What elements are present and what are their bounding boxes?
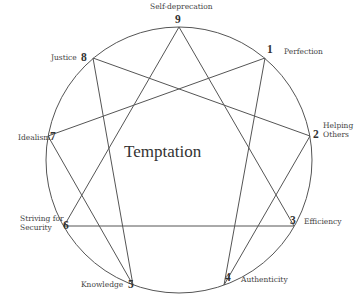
point-8-label: Justice (51, 53, 77, 62)
point-2-label-line1: Helping (323, 121, 353, 130)
point-5-number: 5 (128, 278, 134, 290)
point-9-number: 9 (175, 13, 181, 25)
point-8-number: 8 (81, 51, 87, 63)
inner-triangle (64, 27, 294, 226)
point-4-label: Authenticity (241, 275, 288, 284)
point-7-label: Idealism (18, 133, 50, 142)
point-6-label-line1: Striving for (20, 214, 64, 223)
inner-hexad (48, 58, 310, 285)
point-6-label-line2: Security (20, 223, 52, 232)
point-7-number: 7 (50, 130, 56, 142)
point-4-number: 4 (225, 271, 231, 283)
point-2-label-line2: Others (323, 130, 349, 139)
point-3-label: Efficiency (304, 217, 342, 226)
point-9-label: Self-deprecation (150, 2, 213, 11)
point-1-number: 1 (267, 43, 273, 55)
center-label: Temptation (124, 142, 201, 162)
point-3-number: 3 (290, 214, 296, 226)
point-5-label: Knowledge (81, 280, 123, 289)
point-1-label: Perfection (284, 47, 323, 56)
point-2-number: 2 (313, 128, 319, 140)
